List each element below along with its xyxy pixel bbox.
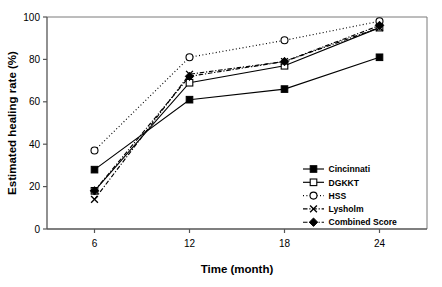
data-point bbox=[281, 86, 288, 93]
x-tick-label: 6 bbox=[92, 238, 98, 249]
y-tick-label: 100 bbox=[23, 12, 40, 23]
chart-container: 020406080100 6121824 Time (month) Estima… bbox=[0, 0, 442, 287]
series-line bbox=[95, 21, 380, 150]
legend-label: HSS bbox=[329, 191, 347, 201]
data-series-layer bbox=[90, 18, 383, 203]
series-lysholm bbox=[91, 24, 383, 203]
y-tick-label: 0 bbox=[34, 224, 40, 235]
data-point bbox=[91, 147, 98, 154]
data-point bbox=[91, 166, 98, 173]
y-tick-label: 20 bbox=[29, 181, 41, 192]
data-point bbox=[281, 37, 288, 44]
legend-item-combined-score[interactable]: Combined Score bbox=[303, 217, 397, 227]
legend-item-cincinnati[interactable]: Cincinnati bbox=[303, 164, 370, 174]
x-tick-label: 18 bbox=[279, 238, 291, 249]
legend-label: Cincinnati bbox=[329, 164, 371, 174]
y-tick-label: 60 bbox=[29, 96, 41, 107]
series-cincinnati bbox=[91, 54, 383, 173]
data-point bbox=[376, 54, 383, 61]
legend-marker-sample bbox=[310, 179, 317, 186]
x-tick-label: 24 bbox=[374, 238, 386, 249]
y-axis-tick-labels: 020406080100 bbox=[23, 12, 40, 235]
x-axis-title: Time (month) bbox=[201, 263, 274, 275]
legend-item-hss[interactable]: HSS bbox=[303, 191, 346, 201]
legend-marker-sample bbox=[309, 218, 317, 226]
legend-marker-sample bbox=[310, 166, 317, 173]
line-chart: 020406080100 6121824 Time (month) Estima… bbox=[0, 0, 442, 287]
legend-label: DGKKT bbox=[329, 178, 360, 188]
x-tick-label: 12 bbox=[184, 238, 196, 249]
chart-legend[interactable]: CincinnatiDGKKTHSSLysholmCombined Score bbox=[303, 164, 397, 227]
legend-item-dgkkt[interactable]: DGKKT bbox=[303, 178, 360, 188]
y-axis-title: Estimated healing rate (%) bbox=[6, 51, 18, 195]
plot-frame bbox=[47, 17, 427, 229]
series-hss bbox=[91, 18, 383, 154]
y-tick-label: 80 bbox=[29, 54, 41, 65]
data-point bbox=[186, 96, 193, 103]
legend-marker-sample bbox=[310, 192, 317, 199]
y-tick-label: 40 bbox=[29, 139, 41, 150]
legend-item-lysholm[interactable]: Lysholm bbox=[303, 204, 364, 214]
data-point bbox=[186, 54, 193, 61]
legend-label: Lysholm bbox=[329, 204, 364, 214]
x-axis-tick-labels: 6121824 bbox=[92, 238, 386, 249]
data-point bbox=[91, 196, 98, 203]
legend-label: Combined Score bbox=[329, 217, 398, 227]
